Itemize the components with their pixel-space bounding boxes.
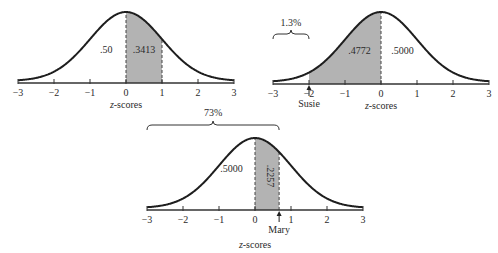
- tick-label: 3: [487, 88, 492, 99]
- tick-label: −3: [13, 87, 24, 98]
- area-value-label: .5000: [391, 45, 414, 56]
- tick-label: 0: [253, 214, 258, 225]
- axis-title: z-scores: [238, 239, 271, 250]
- marker-name-label: Mary: [268, 224, 290, 235]
- tick-label: −3: [268, 88, 279, 99]
- percentile-label: 73%: [204, 107, 222, 118]
- bracket-brace: [273, 30, 309, 39]
- area-value-label: .5000: [220, 163, 243, 174]
- tick-label: −2: [49, 87, 60, 98]
- tick-label: 1: [160, 87, 165, 98]
- tick-label: −1: [85, 87, 96, 98]
- tick-label: 0: [379, 88, 384, 99]
- tick-label: 2: [196, 87, 201, 98]
- percentile-label: 1.3%: [281, 17, 302, 28]
- area-value-label: .3413: [133, 44, 156, 55]
- normal-curve-panel-bottom: −3−2−10123.5000.2257z-scores73%Mary: [142, 107, 366, 250]
- marker-name-label: Susie: [298, 98, 320, 109]
- tick-label: 2: [451, 88, 456, 99]
- axis-title: z-scores: [109, 99, 142, 110]
- normal-curve-panel-left: −3−2−10123.50.3413z-scores: [13, 12, 237, 110]
- tick-label: −1: [340, 88, 351, 99]
- tick-label: 0: [124, 87, 129, 98]
- tick-label: 3: [232, 87, 237, 98]
- area-value-label: .4772: [348, 45, 371, 56]
- area-value-label: .50: [100, 44, 113, 55]
- up-arrow-icon: [277, 211, 282, 216]
- normal-curve-panel-right: −3−2−10123.4772.5000z-scores1.3%Susie: [268, 12, 492, 111]
- tick-label: 3: [361, 214, 366, 225]
- normal-distribution-figure: −3−2−10123.50.3413z-scores −3−2−10123.47…: [0, 0, 498, 253]
- bracket-brace: [147, 121, 279, 130]
- tick-label: −1: [214, 214, 225, 225]
- tick-label: −3: [142, 214, 153, 225]
- axis-title: z-scores: [364, 100, 397, 111]
- tick-label: 2: [325, 214, 330, 225]
- tick-label: 1: [415, 88, 420, 99]
- area-value-label: .2257: [265, 165, 276, 188]
- tick-label: −2: [178, 214, 189, 225]
